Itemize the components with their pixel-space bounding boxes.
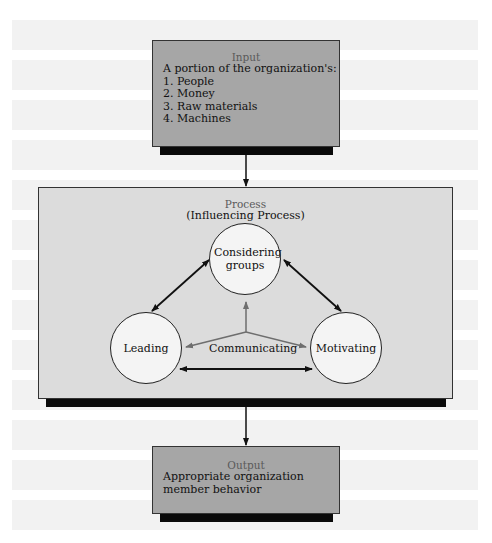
node-considering-groups-label: Considering groups [214,246,276,272]
leading-considering-arrow [152,260,209,311]
node-considering-groups: Considering groups [209,223,281,295]
node-leading-label: Leading [123,342,168,355]
node-leading: Leading [110,312,182,384]
node-motivating: Motivating [310,312,382,384]
communicating-label: Communicating [209,342,297,355]
node-motivating-label: Motivating [316,342,377,355]
considering-motivating-arrow [284,260,341,311]
